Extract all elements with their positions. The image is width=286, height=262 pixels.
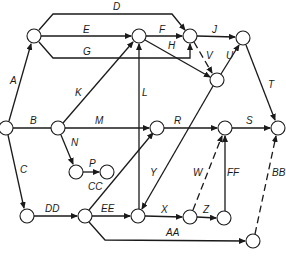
edge-y [142,86,213,209]
edge-z [197,217,216,218]
node-n12 [100,165,114,179]
node-n18 [246,234,260,248]
node-n2 [27,29,41,43]
label-k: K [75,87,83,98]
node-n10 [271,121,285,135]
node-n6 [236,31,250,45]
node-n5 [183,29,197,43]
label-f: F [159,24,166,35]
node-n1 [0,121,13,135]
network-diagram: A B C D E G F H J V U T K M L R S N P CC… [0,0,286,262]
label-e: E [83,24,90,35]
node-n7 [210,73,224,87]
label-aa: AA [165,227,180,238]
label-y: Y [150,167,158,178]
label-m: M [95,115,104,126]
label-t: T [268,79,275,90]
label-dd: DD [45,203,59,214]
label-a: A [9,75,17,86]
label-l: L [142,87,148,98]
edge-j [197,36,235,37]
label-ee: EE [101,203,115,214]
nodes [0,29,285,248]
label-p: P [89,158,96,169]
label-c: C [20,164,28,175]
node-n14 [78,209,92,223]
edge-bb [255,136,276,234]
label-s: S [246,115,253,126]
label-b: B [30,115,37,126]
edge-k [63,42,133,123]
label-h: H [168,40,176,51]
label-u: U [226,50,234,61]
node-n13 [20,209,34,223]
label-cc: CC [88,181,103,192]
node-n9 [218,121,232,135]
node-n15 [131,209,145,223]
label-x: X [160,204,168,215]
label-ff: FF [227,167,240,178]
label-d: D [113,1,120,12]
label-r: R [174,115,181,126]
label-v: V [206,50,214,61]
node-n16 [183,210,197,224]
label-n: N [71,137,79,148]
node-n8 [150,121,164,135]
node-n17 [217,211,231,225]
node-n3 [51,121,65,135]
label-w: W [193,167,204,178]
label-g: G [83,46,91,57]
node-n11 [69,165,83,179]
node-n4 [132,29,146,43]
label-j: J [211,24,218,35]
label-z: Z [202,204,210,215]
label-bb: BB [272,167,286,178]
edge-x [145,216,182,217]
